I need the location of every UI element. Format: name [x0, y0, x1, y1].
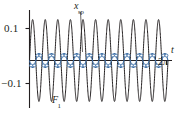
series-marker-x_sp — [36, 54, 39, 57]
series-marker-x_sp — [130, 64, 133, 67]
series-marker-x_sp — [105, 64, 108, 67]
series-marker-x_sp — [33, 64, 36, 67]
series-marker-x_sp — [86, 54, 89, 57]
curve-label-xsp: xsp — [74, 1, 85, 14]
series-marker-x_sp — [118, 64, 121, 67]
curve-label-xsp-subscript: sp — [78, 8, 84, 15]
x-axis-label: t — [171, 45, 174, 55]
series-marker-x_sp — [133, 64, 136, 67]
series-marker-x_sp — [77, 54, 80, 57]
series-marker-x_sp — [74, 54, 77, 57]
y-axis-label-negative: −0.1 — [1, 78, 22, 89]
series-marker-x_sp — [70, 64, 73, 67]
series-marker-x_sp — [80, 64, 83, 67]
series-marker-x_sp — [149, 54, 152, 57]
series-marker-x_sp — [137, 54, 140, 57]
series-marker-x_sp — [64, 54, 67, 57]
series-marker-x_sp — [108, 64, 111, 67]
series-marker-x_sp — [111, 54, 114, 57]
series-marker-x_sp — [52, 54, 55, 57]
series-marker-x_sp — [48, 54, 51, 57]
series-marker-x_sp — [58, 64, 61, 67]
series-marker-x_sp — [55, 64, 58, 67]
series-marker-x_sp — [124, 54, 127, 57]
series-marker-x_sp — [140, 54, 143, 57]
series-marker-x_sp — [39, 54, 42, 57]
curve-label-f1-subscript: 1 — [58, 102, 61, 109]
series-marker-x_sp — [67, 64, 70, 67]
series-marker-x_sp — [89, 54, 92, 57]
plot-area — [0, 0, 182, 113]
series-marker-x_sp — [121, 64, 124, 67]
series-marker-x_sp — [99, 54, 102, 57]
series-marker-x_sp — [93, 64, 96, 67]
x-tick-label-2pi-symbol: π — [163, 56, 168, 67]
x-tick-label-2pi: 2π — [158, 57, 168, 67]
series-marker-x_sp — [83, 64, 86, 67]
series-marker-x_sp — [115, 54, 118, 57]
series-marker-x_sp — [143, 64, 146, 67]
series-marker-x_sp — [146, 64, 149, 67]
series-marker-x_sp — [42, 64, 45, 67]
series-marker-x_sp — [30, 64, 33, 67]
series-marker-x_sp — [96, 64, 99, 67]
curve-label-f1: F1 — [52, 95, 62, 108]
series-marker-x_sp — [102, 54, 105, 57]
oscillation-figure: 0.1 −0.1 xsp F1 t 2π — [0, 0, 182, 113]
y-axis-label-positive: 0.1 — [4, 23, 18, 34]
series-marker-x_sp — [45, 64, 48, 67]
series-marker-x_sp — [127, 54, 130, 57]
series-marker-x_sp — [152, 54, 155, 57]
series-marker-x_sp — [61, 54, 64, 57]
